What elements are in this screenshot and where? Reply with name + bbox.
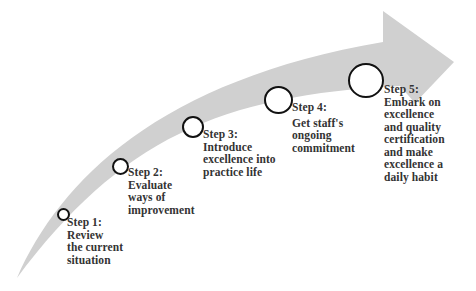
step-2-label: Step 2: Evaluate ways of improvement bbox=[128, 166, 195, 216]
step-3-title: Step 3: bbox=[203, 128, 276, 141]
step-2-title: Step 2: bbox=[128, 166, 195, 179]
step-1-description: Review the current situation bbox=[67, 229, 123, 267]
step-3-marker bbox=[182, 116, 204, 138]
step-4-description: Get staff's ongoing commitment bbox=[292, 117, 355, 155]
step-5-title: Step 5: bbox=[384, 83, 445, 96]
step-5-marker bbox=[348, 63, 384, 98]
step-3-label: Step 3: Introduce excellence into practi… bbox=[203, 128, 276, 178]
step-4-title: Step 4: bbox=[292, 101, 355, 114]
step-2-description: Evaluate ways of improvement bbox=[128, 179, 195, 217]
step-1-label: Step 1: Review the current situation bbox=[67, 216, 123, 266]
step-4-marker bbox=[264, 86, 293, 114]
step-1-title: Step 1: bbox=[67, 216, 123, 229]
step-3-description: Introduce excellence into practice life bbox=[203, 141, 276, 179]
step-5-label: Step 5: Embark on excellence and quality… bbox=[384, 83, 445, 183]
step-4-label: Step 4: Get staff's ongoing commitment bbox=[292, 101, 355, 154]
step-5-description: Embark on excellence and quality certifi… bbox=[384, 96, 445, 184]
step-2-marker bbox=[112, 158, 129, 175]
process-diagram: Step 1: Review the current situation Ste… bbox=[0, 0, 476, 291]
